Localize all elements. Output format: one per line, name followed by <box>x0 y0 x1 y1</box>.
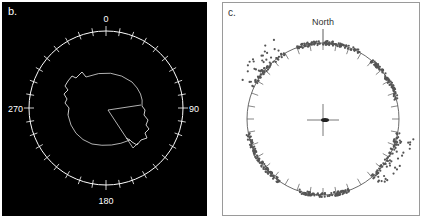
axis-label-0: 0 <box>103 14 108 24</box>
scatter-points <box>242 39 415 198</box>
center-cluster <box>321 118 329 122</box>
axis-label-270: 270 <box>8 104 23 114</box>
axis-label-90: 90 <box>189 104 199 114</box>
polar-plot-panel-b: b. 0 90 180 270 <box>2 2 207 216</box>
scatter-plot-panel-c: c. North <box>222 2 420 216</box>
north-label: North <box>312 17 334 27</box>
angular-ticks <box>24 26 188 190</box>
trajectory-trace <box>64 72 149 148</box>
polar-plot-b: 0 90 180 270 <box>2 2 207 216</box>
orientation-scatter-c: North <box>223 3 421 217</box>
axis-label-180: 180 <box>98 196 113 206</box>
polar-circle <box>29 31 183 185</box>
